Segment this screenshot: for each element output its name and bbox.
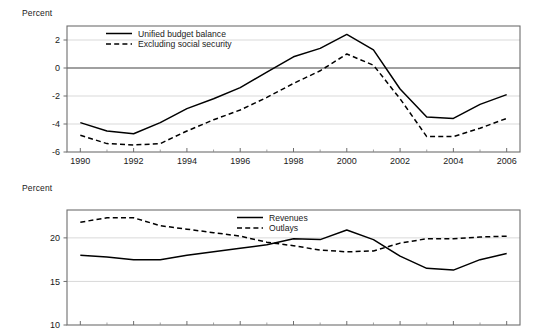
chart-panel-budget-balance: Percent 20-2-4-6199019921994199619982000… xyxy=(0,0,550,172)
legend-label-1: Unified budget balance xyxy=(138,29,226,39)
y-tick-label: 10 xyxy=(50,320,60,330)
x-tick-label: 1994 xyxy=(177,156,197,166)
legend-label-1: Revenues xyxy=(269,213,308,223)
series-line-1 xyxy=(80,230,506,270)
x-tick-label: 1996 xyxy=(230,156,250,166)
y-tick-label: -4 xyxy=(52,119,60,129)
legend-label-2: Outlays xyxy=(269,223,298,233)
y-tick-label: 0 xyxy=(55,63,60,73)
y-tick-label: 15 xyxy=(50,277,60,287)
x-tick-label: 1998 xyxy=(283,156,303,166)
x-tick-label: 1990 xyxy=(70,156,90,166)
y-tick-label: 20 xyxy=(50,233,60,243)
x-tick-label: 2004 xyxy=(443,156,463,166)
x-tick-label: 1992 xyxy=(124,156,144,166)
budget-figure: Percent 20-2-4-6199019921994199619982000… xyxy=(0,0,550,330)
chart-panel-revenues-outlays: Percent 201510RevenuesOutlays xyxy=(0,172,550,330)
x-tick-label: 2006 xyxy=(497,156,517,166)
plot-area-budget-balance: 20-2-4-619901992199419961998200020022004… xyxy=(0,0,550,172)
x-tick-label: 2002 xyxy=(390,156,410,166)
x-tick-label: 2000 xyxy=(337,156,357,166)
y-tick-label: -6 xyxy=(52,147,60,157)
plot-area-revenues-outlays: 201510RevenuesOutlays xyxy=(0,172,550,330)
legend-label-2: Excluding social security xyxy=(138,39,232,49)
series-line-1 xyxy=(80,34,506,133)
y-tick-label: -2 xyxy=(52,91,60,101)
y-tick-label: 2 xyxy=(55,35,60,45)
